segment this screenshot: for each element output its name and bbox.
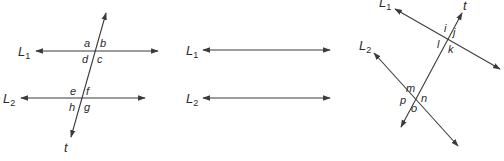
figure-1-label-l1: L1 bbox=[18, 44, 30, 61]
angle-label-d: d bbox=[82, 53, 89, 65]
angle-label-a: a bbox=[84, 37, 90, 49]
figure-2-label-l2: L2 bbox=[186, 91, 198, 108]
angle-label-c: c bbox=[97, 53, 103, 65]
figure-3-label-t: t bbox=[463, 0, 468, 13]
angle-label-m: m bbox=[406, 82, 415, 94]
diagram-canvas: L1 L2 t a b c d e f g h L1 L2 L1 bbox=[0, 0, 504, 161]
figure-1-label-t: t bbox=[64, 140, 69, 155]
angle-label-n: n bbox=[421, 92, 427, 104]
figure-3-label-l2: L2 bbox=[359, 38, 371, 55]
figure-1: L1 L2 t a b c d e f g h bbox=[3, 13, 158, 155]
angle-label-b: b bbox=[100, 37, 106, 49]
figure-3: L1 L2 t i j k l m n o p bbox=[359, 0, 500, 146]
angle-label-h: h bbox=[69, 101, 75, 113]
figure-1-label-l2: L2 bbox=[3, 91, 15, 108]
angle-label-k: k bbox=[448, 43, 454, 55]
angle-label-i: i bbox=[444, 22, 447, 34]
figure-2: L1 L2 bbox=[186, 43, 330, 108]
angle-label-f: f bbox=[86, 85, 90, 97]
angle-label-e: e bbox=[70, 85, 76, 97]
angle-label-l: l bbox=[437, 38, 440, 50]
angle-label-g: g bbox=[84, 101, 91, 113]
angle-label-o: o bbox=[411, 102, 417, 114]
angle-label-p: p bbox=[399, 94, 406, 106]
figure-3-label-l1: L1 bbox=[379, 0, 391, 12]
figure-2-label-l1: L1 bbox=[186, 43, 198, 60]
figure-1-transversal-t bbox=[71, 13, 106, 137]
